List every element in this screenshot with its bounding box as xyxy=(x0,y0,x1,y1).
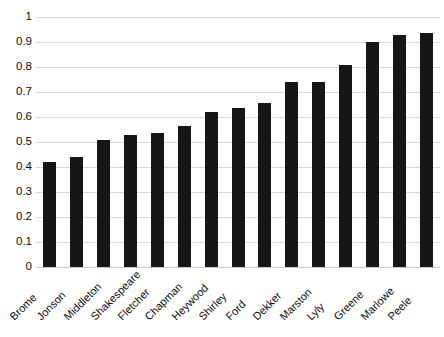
x-axis: BromeJonsonMiddletonShakespeareFletcherC… xyxy=(36,268,444,337)
bars-layer xyxy=(36,17,440,267)
x-axis-tick-label: Greene xyxy=(332,289,366,323)
y-axis-tick-label: 0.2 xyxy=(0,211,32,223)
bar xyxy=(366,42,379,267)
bar xyxy=(393,35,406,268)
x-axis-tick-label: Dekker xyxy=(251,290,283,322)
y-axis-tick-label: 0.8 xyxy=(0,61,32,73)
y-axis-tick-label: 1 xyxy=(0,11,32,23)
bar-chart: 00.10.20.30.40.50.60.70.80.91 BromeJonso… xyxy=(0,0,444,337)
x-axis-tick-label: Jonson xyxy=(35,290,68,323)
x-axis-tick-label: Brome xyxy=(8,292,39,323)
bar xyxy=(258,103,271,267)
bar xyxy=(420,33,433,267)
y-axis-tick-label: 0.9 xyxy=(0,36,32,48)
y-axis-tick-label: 0.3 xyxy=(0,186,32,198)
bar xyxy=(285,82,298,267)
y-axis-tick-label: 0.5 xyxy=(0,136,32,148)
bar xyxy=(232,108,245,267)
y-axis: 00.10.20.30.40.50.60.70.80.91 xyxy=(0,17,32,267)
y-axis-tick-label: 0.6 xyxy=(0,111,32,123)
y-axis-tick-label: 0.7 xyxy=(0,86,32,98)
bar xyxy=(70,157,83,267)
bar xyxy=(312,82,325,267)
x-axis-tick-label: Lyly xyxy=(305,301,326,322)
bar xyxy=(43,162,56,267)
bar xyxy=(205,112,218,267)
bar xyxy=(151,133,164,267)
bar xyxy=(97,140,110,268)
y-axis-tick-label: 0 xyxy=(0,261,32,273)
bar xyxy=(178,126,191,267)
y-axis-tick-label: 0.4 xyxy=(0,161,32,173)
x-axis-tick-label: Ford xyxy=(224,299,248,323)
bar xyxy=(339,65,352,268)
y-axis-tick-label: 0.1 xyxy=(0,236,32,248)
bar xyxy=(124,135,137,268)
